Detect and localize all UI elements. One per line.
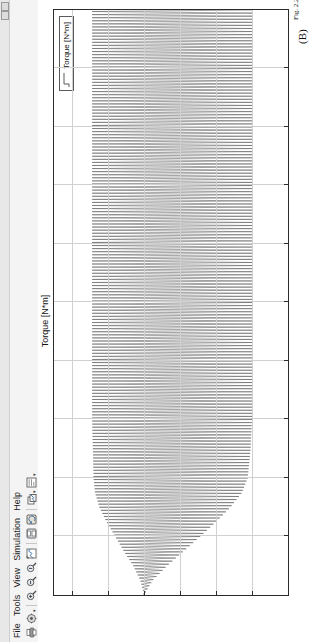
y-tick-mark — [72, 591, 73, 595]
scope-window: File Tools View Simulation Help ▾ — [0, 0, 315, 642]
grid-line-horizontal — [144, 10, 145, 595]
y-tick-mark — [144, 591, 145, 595]
y-tick-mark — [216, 591, 217, 595]
parameters-icon[interactable] — [25, 612, 38, 625]
signal-selection-icon[interactable] — [25, 476, 38, 489]
scope-window-stage: File Tools View Simulation Help ▾ — [0, 0, 315, 642]
print-icon[interactable] — [25, 626, 38, 639]
figure-label: (B) — [296, 29, 308, 44]
floating-scope-icon[interactable] — [25, 493, 38, 506]
menu-bar: File Tools View Simulation Help — [10, 0, 23, 642]
zoom-x-icon[interactable] — [25, 575, 38, 588]
chart-axes[interactable]: Torque [N*m] 0.20.40.60.811.21.41.61.820… — [53, 9, 289, 596]
maximize-button[interactable] — [1, 2, 9, 11]
menu-item-view[interactable]: View — [12, 568, 22, 588]
toolbar-separator — [26, 509, 37, 510]
zoom-y-icon[interactable] — [25, 561, 38, 574]
minimize-button[interactable] — [1, 11, 9, 20]
torque-trace-path — [92, 10, 252, 595]
restore-axes-settings-icon[interactable] — [25, 513, 38, 526]
menu-item-help[interactable]: Help — [12, 492, 22, 511]
plot-title: Torque [N*m] — [40, 0, 50, 642]
grid-line-horizontal — [288, 10, 289, 595]
save-axes-settings-icon[interactable] — [25, 527, 38, 540]
y-tick-mark — [252, 591, 253, 595]
toolbar-separator — [26, 543, 37, 544]
legend-label-torque: Torque [N*m] — [62, 22, 71, 69]
grid-line-horizontal — [108, 10, 109, 595]
toolbar-separator — [26, 605, 37, 606]
grid-line-horizontal — [252, 10, 253, 595]
legend-swatch-torque — [63, 73, 70, 87]
grid-line-horizontal — [180, 10, 181, 595]
plot-area: Torque [N*m] Torque [N*m] 0.20.40.60.811… — [38, 0, 315, 642]
zoom-in-icon[interactable] — [25, 589, 38, 602]
y-tick-mark — [108, 591, 109, 595]
y-tick-mark — [180, 591, 181, 595]
menu-item-tools[interactable]: Tools — [12, 595, 22, 617]
menu-item-simulation[interactable]: Simulation — [12, 518, 22, 561]
figure-caption: Fig. 2.22 Simulation of torque... — [292, 0, 301, 20]
window-title-bar — [0, 0, 10, 642]
menu-item-file[interactable]: File — [12, 623, 22, 638]
grid-line-horizontal — [72, 10, 73, 595]
y-tick-mark — [288, 591, 289, 595]
autoscale-icon[interactable] — [25, 547, 38, 560]
grid-line-horizontal — [216, 10, 217, 595]
